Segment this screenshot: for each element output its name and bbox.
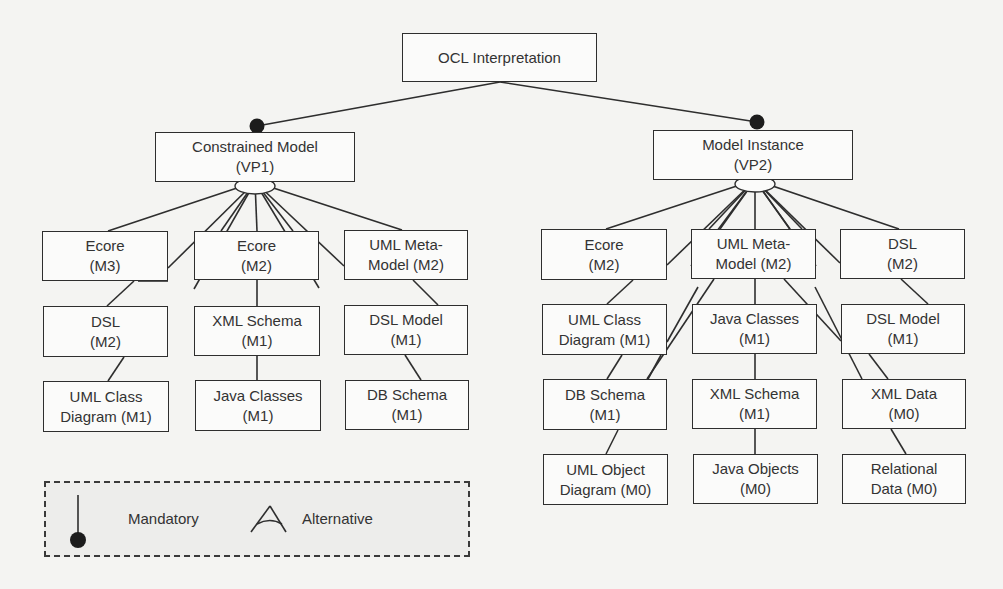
node-label-line: Model Instance	[702, 135, 804, 155]
node-label-line: (VP1)	[236, 157, 274, 177]
feature-node-r-uml-class: UML ClassDiagram (M1)	[542, 304, 667, 355]
node-label-line: (M1)	[242, 331, 273, 351]
node-label-line: (M0)	[889, 404, 920, 424]
connector-line	[709, 180, 755, 229]
feature-node-l-db-schema: DB Schema(M1)	[345, 380, 469, 430]
node-label-line: OCL Interpretation	[438, 48, 561, 68]
node-label-line: (M1)	[739, 329, 770, 349]
feature-node-l-java-classes: Java Classes(M1)	[195, 380, 321, 431]
node-label-line: UML Class	[568, 310, 641, 330]
feature-node-l-uml-meta: UML Meta-Model (M2)	[344, 230, 468, 280]
feature-node-vp1: Constrained Model(VP1)	[155, 132, 355, 182]
feature-node-vp2: Model Instance(VP2)	[653, 130, 853, 180]
node-label-line: Ecore	[237, 236, 276, 256]
node-label-line: Model (M2)	[716, 254, 792, 274]
node-label-line: Data (M0)	[871, 479, 938, 499]
connector-line	[607, 280, 633, 304]
connector-line	[221, 182, 255, 231]
connector-line	[405, 355, 421, 380]
node-label-line: (M1)	[739, 404, 770, 424]
node-label-line: Java Classes	[213, 386, 302, 406]
mandatory-icon	[70, 495, 86, 548]
feature-node-l-xml-schema: XML Schema(M1)	[194, 306, 320, 356]
node-label-line: (M1)	[391, 330, 422, 350]
node-label-line: Constrained Model	[192, 137, 318, 157]
node-label-line: DSL	[888, 234, 917, 254]
node-label-line: DB Schema	[565, 385, 645, 405]
connector-line	[108, 357, 124, 381]
feature-node-l-uml-class: UML ClassDiagram (M1)	[43, 381, 169, 432]
node-label-line: Diagram (M1)	[559, 330, 651, 350]
legend-mandatory-label: Mandatory	[128, 510, 199, 527]
node-label-line: Model (M2)	[368, 255, 444, 275]
connector-line	[755, 180, 802, 229]
node-label-line: (M1)	[392, 405, 423, 425]
feature-node-r-db-schema: DB Schema(M1)	[543, 379, 667, 430]
feature-node-r-java-classes: Java Classes(M1)	[692, 304, 817, 354]
feature-node-l-dsl-m2: DSL(M2)	[43, 306, 168, 357]
legend-alternative-label: Alternative	[302, 510, 373, 527]
connector-line	[720, 180, 755, 229]
feature-node-r-dsl-m2: DSL(M2)	[840, 229, 965, 279]
node-label-line: DSL Model	[866, 309, 940, 329]
node-label-line: Ecore	[584, 235, 623, 255]
node-label-line: UML Meta-	[717, 234, 791, 254]
node-label-line: XML Schema	[212, 311, 301, 331]
node-label-line: (M1)	[243, 406, 274, 426]
feature-node-r-uml-object: UML ObjectDiagram (M0)	[543, 454, 668, 505]
legend-box: Mandatory Alternative	[44, 481, 470, 557]
feature-node-l-ecore-m2: Ecore(M2)	[194, 231, 319, 280]
connector-line	[606, 430, 618, 454]
node-label-line: UML Class	[70, 387, 143, 407]
feature-node-r-uml-meta: UML Meta-Model (M2)	[691, 229, 816, 279]
node-label-line: XML Data	[871, 384, 937, 404]
connector-line	[869, 354, 888, 379]
feature-node-ocl: OCL Interpretation	[402, 33, 597, 82]
connector-line	[648, 355, 661, 379]
node-label-line: UML Meta-	[369, 235, 443, 255]
mandatory-dot-icon	[750, 115, 765, 130]
feature-node-r-ecore-m2: Ecore(M2)	[541, 229, 667, 280]
connector-line	[413, 280, 438, 305]
connector-line	[257, 82, 500, 126]
node-label-line: (M2)	[241, 256, 272, 276]
connector-line	[755, 180, 899, 229]
node-label-line: Diagram (M1)	[60, 407, 152, 427]
alternative-icon	[251, 506, 286, 532]
node-label-line: (M1)	[888, 329, 919, 349]
connector-line	[755, 180, 790, 229]
node-label-line: DSL	[91, 312, 120, 332]
feature-node-l-ecore-m3: Ecore(M3)	[42, 231, 168, 281]
connector-line	[891, 429, 906, 454]
node-label-line: Ecore	[85, 236, 124, 256]
connector-line	[607, 355, 622, 379]
node-label-line: DB Schema	[367, 385, 447, 405]
node-label-line: (M3)	[90, 256, 121, 276]
node-label-line: Java Objects	[712, 459, 799, 479]
node-label-line: Java Classes	[710, 309, 799, 329]
connector-line	[107, 281, 134, 306]
node-label-line: Relational	[871, 459, 938, 479]
node-label-line: XML Schema	[710, 384, 799, 404]
node-label-line: (M2)	[90, 332, 121, 352]
feature-node-r-dsl-model: DSL Model(M1)	[841, 304, 965, 354]
connector-line	[255, 182, 402, 230]
node-label-line: (M2)	[887, 254, 918, 274]
node-label-line: (VP2)	[734, 155, 772, 175]
connector-line	[500, 82, 757, 122]
node-label-line: (M0)	[740, 479, 771, 499]
node-label-line: DSL Model	[369, 310, 443, 330]
node-label-line: Diagram (M0)	[560, 480, 652, 500]
feature-node-l-dsl-model: DSL Model(M1)	[344, 305, 468, 355]
connector-line	[255, 182, 257, 231]
feature-node-r-java-objects: Java Objects(M0)	[693, 454, 818, 504]
feature-diagram: OCL InterpretationConstrained Model(VP1)…	[0, 0, 1003, 589]
legend-icons	[46, 483, 472, 559]
feature-node-r-xml-data: XML Data(M0)	[842, 379, 966, 429]
connector-line	[255, 182, 293, 231]
feature-node-r-xml-schema: XML Schema(M1)	[692, 379, 817, 429]
connector-line	[108, 182, 255, 231]
node-label-line: UML Object	[566, 460, 645, 480]
node-label-line: (M1)	[590, 405, 621, 425]
feature-node-r-relational: RelationalData (M0)	[842, 454, 966, 504]
